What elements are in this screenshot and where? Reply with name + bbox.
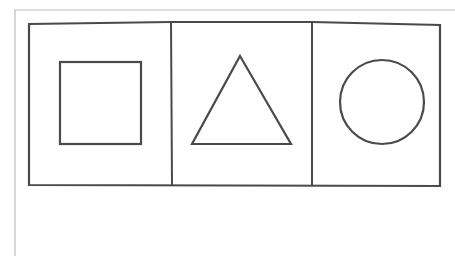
triangle-shape [192, 56, 291, 144]
page-border [15, 10, 455, 256]
circle-shape [340, 60, 424, 144]
outer-frame [29, 22, 440, 186]
panel-triangle [192, 56, 291, 144]
panel-square [60, 62, 141, 144]
panel-circle [340, 60, 424, 144]
square-shape [60, 62, 141, 144]
shapes-diagram [0, 0, 455, 256]
panel-divider-1 [171, 22, 172, 185]
